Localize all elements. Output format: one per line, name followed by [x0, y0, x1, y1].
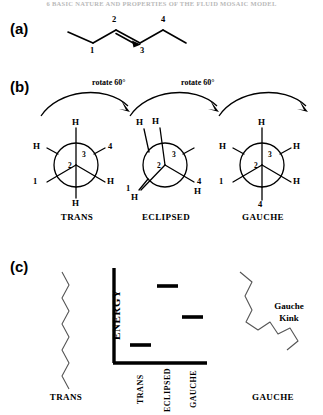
kink-line-1: Gauche [274, 301, 304, 311]
kink-line-2: Kink [279, 313, 299, 323]
figure-root: 6 BASIC NATURE AND PROPERTIES OF THE FLU… [0, 0, 323, 415]
gauche-kink-annotation: Gauche Kink [258, 300, 320, 324]
gauche-chain-drawing [0, 0, 323, 415]
gauche-chain-caption: GAUCHE [240, 392, 306, 402]
